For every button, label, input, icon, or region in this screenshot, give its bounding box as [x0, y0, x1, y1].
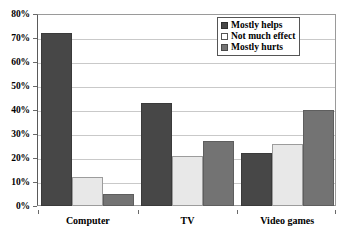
- legend-item[interactable]: Mostly hurts: [221, 42, 295, 53]
- x-axis-tick-label: TV: [181, 215, 195, 226]
- legend-item-label: Not much effect: [231, 31, 295, 42]
- y-axis: 0%10%20%30%40%50%60%70%80%: [0, 0, 37, 240]
- y-axis-tick-mark: [33, 182, 37, 183]
- y-axis-tick-label: 70%: [11, 33, 30, 43]
- bar: [241, 153, 272, 206]
- bar: [72, 177, 103, 206]
- legend-item[interactable]: Not much effect: [221, 31, 295, 42]
- x-axis-tick-mark: [138, 210, 139, 214]
- x-axis-tick-mark: [38, 210, 39, 214]
- x-axis-tick-mark: [335, 210, 336, 214]
- x-axis-tick-label: Computer: [66, 215, 110, 226]
- y-axis-tick-mark: [33, 134, 37, 135]
- y-axis-tick-label: 30%: [11, 129, 30, 139]
- bar-chart: 0%10%20%30%40%50%60%70%80% ComputerTVVid…: [0, 0, 350, 240]
- y-axis-tick-label: 20%: [11, 153, 30, 163]
- bar-group: [38, 14, 138, 206]
- legend-item-label: Mostly hurts: [231, 42, 283, 53]
- y-axis-tick-mark: [33, 14, 37, 15]
- x-axis-tick-mark: [237, 210, 238, 214]
- y-axis-tick-label: 60%: [11, 57, 30, 67]
- legend-swatch-icon: [221, 33, 228, 40]
- bar: [303, 110, 334, 206]
- bar: [103, 194, 134, 206]
- y-axis-tick-mark: [33, 62, 37, 63]
- y-axis-tick-mark: [33, 86, 37, 87]
- legend-swatch-icon: [221, 22, 228, 29]
- y-axis-tick-label: 10%: [11, 177, 30, 187]
- y-axis-tick-label: 50%: [11, 81, 30, 91]
- y-axis-tick-mark: [33, 206, 37, 207]
- x-axis-tick-label: Video games: [260, 215, 314, 226]
- y-axis-tick-mark: [33, 158, 37, 159]
- y-axis-tick-mark: [33, 110, 37, 111]
- y-axis-tick-label: 40%: [11, 105, 30, 115]
- legend-item-label: Mostly helps: [231, 20, 282, 31]
- legend-swatch-icon: [221, 44, 228, 51]
- bar: [41, 33, 72, 206]
- y-axis-tick-mark: [33, 38, 37, 39]
- y-axis-tick-label: 80%: [11, 9, 30, 19]
- bar: [272, 144, 303, 206]
- y-axis-tick-label: 0%: [16, 201, 30, 211]
- legend-item[interactable]: Mostly helps: [221, 20, 295, 31]
- bar: [172, 156, 203, 206]
- bar: [203, 141, 234, 206]
- bar: [141, 103, 172, 206]
- x-axis: ComputerTVVideo games: [37, 210, 336, 238]
- legend: Mostly helpsNot much effectMostly hurts: [217, 17, 300, 56]
